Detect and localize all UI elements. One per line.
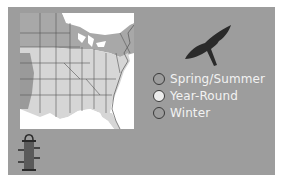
- legend-item-winter: Winter: [153, 104, 265, 121]
- legend-label: Year-Round: [170, 89, 238, 103]
- winter-swatch-icon: [153, 107, 165, 119]
- range-map: [20, 13, 134, 129]
- us-map-icon: [20, 13, 134, 129]
- legend-item-spring-summer: Spring/Summer: [153, 70, 265, 87]
- year-round-swatch-icon: [153, 90, 165, 102]
- range-map-panel: Spring/Summer Year-Round Winter: [8, 7, 275, 175]
- legend-label: Spring/Summer: [170, 72, 265, 86]
- legend-label: Winter: [170, 106, 210, 120]
- bird-feeder-icon: [16, 132, 42, 174]
- legend: Spring/Summer Year-Round Winter: [153, 70, 265, 121]
- hawk-icon: [183, 23, 233, 67]
- spring-summer-swatch-icon: [153, 73, 165, 85]
- legend-item-year-round: Year-Round: [153, 87, 265, 104]
